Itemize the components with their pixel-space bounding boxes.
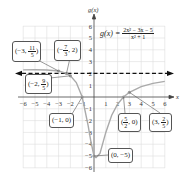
svg-text:1: 1 (89, 82, 92, 89)
svg-text:−6: −6 (85, 164, 93, 171)
label-point-0: (0, −5) (108, 148, 133, 163)
svg-text:−6: −6 (20, 100, 28, 107)
label-point-neg3: (−3, 115) (12, 41, 41, 62)
svg-text:−5: −5 (32, 100, 39, 107)
svg-text:−4: −4 (43, 100, 51, 107)
y-axis-arrow-icon (92, 14, 95, 19)
label-point-5-2: (52, 0) (118, 113, 141, 132)
svg-text:5: 5 (89, 34, 92, 41)
svg-text:4: 4 (140, 100, 144, 107)
x-axis-label: x (175, 93, 179, 100)
svg-text:1: 1 (104, 100, 107, 107)
svg-text:−5: −5 (85, 152, 92, 159)
svg-text:3: 3 (89, 58, 92, 65)
asymptote-left-arrow-icon (15, 71, 22, 76)
label-point-neg2: (−2, 95) (25, 74, 52, 94)
x-tick-labels: −6−5 −4−3 −2−1 12 34 56 (20, 100, 167, 107)
asymptote-right-arrow-icon (167, 71, 174, 76)
y-axis-label: g(x) (88, 6, 98, 14)
svg-text:−1: −1 (85, 105, 92, 112)
function-formula: g(x) = 2x² − 3x − 5x² + 1 (100, 27, 154, 40)
label-point-neg7-3: (−73, 2) (54, 40, 81, 61)
svg-text:3: 3 (128, 100, 131, 107)
svg-text:6: 6 (163, 100, 167, 107)
svg-text:−3: −3 (55, 100, 62, 107)
svg-text:5: 5 (151, 100, 154, 107)
label-point-neg1: (−1, 0) (49, 113, 74, 128)
x-axis-arrow-icon (169, 95, 174, 98)
svg-text:−2: −2 (67, 100, 74, 107)
label-point-3: (3, 25) (149, 113, 172, 132)
